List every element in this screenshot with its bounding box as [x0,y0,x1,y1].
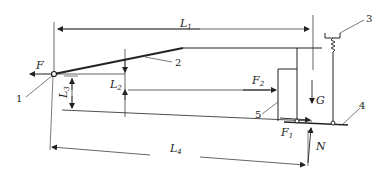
force-diagram: L1 F 1 2 L2 F2 L3 F1 [0,0,386,177]
force-f2: F2 [243,74,276,90]
l3-label: L3 [57,86,71,99]
callout-3: 3 [366,13,372,24]
callout-1: 1 [16,93,22,104]
n-label: N [315,140,326,153]
l4-label: L4 [169,142,182,156]
force-g: G [312,80,325,107]
f-label: F [35,59,44,72]
dimension-l2: L2 [109,49,270,117]
g-label: G [316,94,325,107]
pedal-arm [52,48,323,77]
callout-5: 5 [255,109,261,120]
l1-label: L1 [179,17,192,31]
dimension-l3: L3 [57,76,78,108]
callout-4: 4 [359,100,365,111]
f2-label: F2 [251,74,265,88]
f1-label: F1 [280,126,293,140]
l2-label: L2 [109,78,122,92]
floor-line [62,110,312,121]
force-n: N [308,128,326,163]
force-f: F [30,59,52,74]
callout-2: 2 [175,57,181,68]
